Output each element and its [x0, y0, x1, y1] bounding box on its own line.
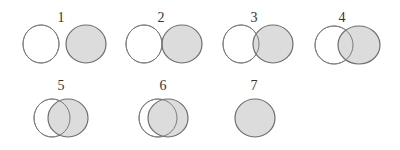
gray-circle: [162, 25, 202, 63]
stage-label: 7: [251, 78, 258, 93]
stage-label: 4: [339, 10, 346, 25]
stage-label: 3: [251, 10, 258, 25]
stage-label: 2: [158, 10, 165, 25]
gray-circle: [48, 99, 88, 137]
gray-circle: [148, 99, 188, 137]
stage-1: 1: [23, 10, 106, 63]
stage-7: 7: [235, 78, 275, 137]
stage-2: 2: [126, 10, 202, 63]
stage-4: 4: [315, 10, 380, 64]
gray-circle: [66, 25, 106, 63]
stage-label: 5: [58, 78, 65, 93]
gray-circle: [338, 26, 380, 64]
stage-label: 6: [160, 78, 167, 93]
stage-6: 6: [139, 78, 188, 137]
stage-5: 5: [34, 78, 88, 137]
venn-sequence-diagram: 1234567: [0, 0, 400, 150]
gray-circle: [235, 99, 275, 137]
stage-label: 1: [58, 10, 65, 25]
stage-3: 3: [223, 10, 293, 63]
